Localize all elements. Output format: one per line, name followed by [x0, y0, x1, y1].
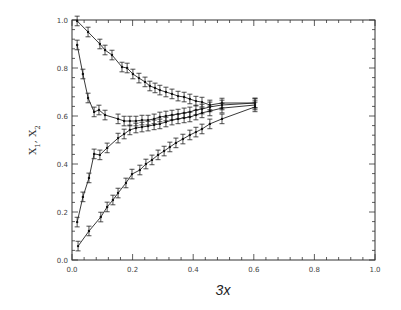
- data-point: [159, 89, 161, 91]
- series-line: [75, 16, 258, 110]
- data-point: [157, 154, 159, 156]
- data-point: [126, 67, 128, 69]
- x-tick-label: 0.0: [66, 266, 77, 274]
- data-point: [88, 177, 90, 179]
- series-line: [76, 102, 258, 251]
- series-line: [75, 40, 258, 126]
- data-point: [177, 118, 179, 120]
- data-point: [99, 154, 101, 156]
- data-series: [75, 16, 258, 251]
- data-point: [154, 87, 156, 89]
- data-point: [221, 118, 223, 120]
- data-point: [100, 216, 102, 218]
- data-point: [76, 44, 78, 46]
- series-line: [75, 100, 258, 227]
- data-point: [144, 81, 146, 83]
- data-point: [129, 129, 131, 131]
- x-tick-label: 0.8: [309, 266, 320, 274]
- data-point: [138, 77, 140, 79]
- data-point: [139, 169, 141, 171]
- data-point: [189, 98, 191, 100]
- y-tick-label: 1.0: [57, 17, 68, 25]
- data-point: [129, 120, 131, 122]
- data-point: [153, 124, 155, 126]
- data-point: [175, 142, 177, 144]
- data-point: [201, 101, 203, 103]
- data-point: [163, 150, 165, 152]
- data-point: [147, 125, 149, 127]
- data-point: [195, 100, 197, 102]
- data-point: [123, 133, 125, 135]
- data-point: [195, 131, 197, 133]
- y-tick-label: 0.6: [57, 113, 69, 121]
- data-point: [76, 221, 78, 223]
- axis-tick-labels: 0.00.20.40.60.81.00.00.20.40.60.81.0: [57, 17, 381, 274]
- plot-frame: [72, 20, 375, 260]
- data-point: [209, 123, 211, 125]
- data-point: [183, 96, 185, 98]
- data-point: [117, 118, 119, 120]
- data-point: [254, 106, 256, 108]
- data-point: [104, 49, 106, 51]
- axis-ticks: [72, 20, 375, 260]
- data-point: [145, 163, 147, 165]
- data-point: [135, 120, 137, 122]
- data-point: [99, 43, 101, 45]
- data-point: [106, 206, 108, 208]
- data-point: [221, 107, 223, 109]
- y-tick-label: 0.2: [57, 209, 68, 217]
- data-point: [183, 117, 185, 119]
- data-point: [182, 138, 184, 140]
- data-point: [76, 20, 78, 22]
- data-point: [82, 196, 84, 198]
- y-tick-label: 0.0: [57, 257, 68, 265]
- data-point: [93, 111, 95, 113]
- data-point: [189, 134, 191, 136]
- data-point: [106, 147, 108, 149]
- data-point: [189, 116, 191, 118]
- y-tick-label: 0.4: [57, 161, 69, 169]
- data-point: [87, 31, 89, 33]
- data-point: [117, 137, 119, 139]
- chart: 0.00.20.40.60.81.00.00.20.40.60.81.0 3x …: [0, 0, 401, 310]
- data-point: [111, 54, 113, 56]
- x-tick-label: 1.0: [369, 266, 380, 274]
- data-point: [117, 192, 119, 194]
- data-point: [151, 159, 153, 161]
- data-point: [141, 119, 143, 121]
- data-point: [104, 114, 106, 116]
- y-tick-label: 0.8: [57, 65, 68, 73]
- data-point: [98, 109, 100, 111]
- data-point: [77, 245, 79, 247]
- data-point: [159, 123, 161, 125]
- x-tick-label: 0.6: [248, 266, 260, 274]
- data-point: [125, 182, 127, 184]
- data-point: [141, 126, 143, 128]
- x-tick-label: 0.4: [188, 266, 200, 274]
- data-point: [165, 91, 167, 93]
- data-point: [93, 153, 95, 155]
- x-axis-title: 3x: [216, 282, 232, 298]
- data-point: [209, 110, 211, 112]
- y-axis-title: X1, X2: [27, 125, 42, 155]
- x-tick-label: 0.2: [127, 266, 138, 274]
- data-point: [87, 97, 89, 99]
- data-point: [82, 73, 84, 75]
- data-point: [169, 146, 171, 148]
- data-point: [195, 114, 197, 116]
- data-point: [177, 95, 179, 97]
- data-point: [171, 119, 173, 121]
- data-point: [201, 112, 203, 114]
- data-point: [123, 120, 125, 122]
- data-point: [149, 85, 151, 87]
- data-point: [135, 127, 137, 129]
- data-point: [159, 116, 161, 118]
- data-point: [121, 66, 123, 68]
- data-point: [201, 128, 203, 130]
- data-point: [131, 173, 133, 175]
- data-point: [171, 93, 173, 95]
- data-point: [132, 73, 134, 75]
- data-point: [165, 121, 167, 123]
- data-point: [88, 230, 90, 232]
- data-point: [112, 199, 114, 201]
